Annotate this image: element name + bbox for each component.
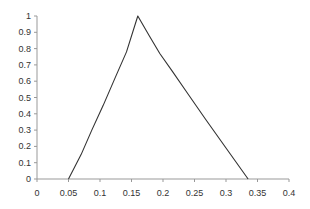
y-tick-label: 0.2 xyxy=(18,141,31,151)
y-tick-label: 0.8 xyxy=(18,44,31,54)
x-tick-label: 0.35 xyxy=(249,188,267,198)
x-tick-label: 0.3 xyxy=(220,188,233,198)
y-tick-label: 0.3 xyxy=(18,125,31,135)
y-tick-label: 0 xyxy=(26,174,31,184)
series-line xyxy=(69,16,249,179)
series xyxy=(69,16,249,179)
y-tick-label: 0.9 xyxy=(18,27,31,37)
x-tick-label: 0.4 xyxy=(283,188,296,198)
y-tick-label: 0.1 xyxy=(18,158,31,168)
y-tick-label: 0.6 xyxy=(18,76,31,86)
y-tick-label: 0.7 xyxy=(18,60,31,70)
ticks: 00.10.20.30.40.50.60.70.80.9100.050.10.1… xyxy=(18,11,295,198)
y-tick-label: 0.4 xyxy=(18,109,31,119)
line-chart: 00.10.20.30.40.50.60.70.80.9100.050.10.1… xyxy=(0,0,310,209)
x-tick-label: 0.25 xyxy=(186,188,204,198)
y-tick-label: 0.5 xyxy=(18,93,31,103)
axes xyxy=(37,16,289,179)
x-tick-label: 0.1 xyxy=(94,188,107,198)
x-tick-label: 0 xyxy=(34,188,39,198)
y-tick-label: 1 xyxy=(26,11,31,21)
x-tick-label: 0.15 xyxy=(123,188,141,198)
x-tick-label: 0.05 xyxy=(60,188,78,198)
x-tick-label: 0.2 xyxy=(157,188,170,198)
